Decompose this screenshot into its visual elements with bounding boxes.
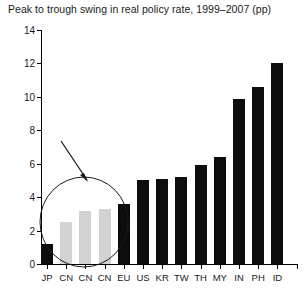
bar-eu-4 — [118, 204, 130, 264]
x-axis-tick-mark — [181, 265, 182, 269]
x-axis-tick-mark — [239, 265, 240, 269]
y-axis-tick-label: 14 — [24, 25, 35, 36]
y-axis-tick-label: 2 — [29, 225, 35, 236]
x-axis-label-2: CN — [79, 272, 93, 283]
x-axis-tick-mark — [124, 265, 125, 269]
x-axis-label-6: KR — [156, 272, 169, 283]
x-axis-label-8: TH — [194, 272, 207, 283]
bar-id-12 — [271, 63, 283, 264]
bar-in-10 — [233, 99, 245, 264]
y-axis-tick-label: 6 — [29, 158, 35, 169]
y-axis-tick-label: 12 — [24, 58, 35, 69]
x-axis-tick-mark — [297, 265, 298, 269]
x-axis-label-11: PH — [252, 272, 265, 283]
y-axis-tick-label: 4 — [29, 192, 35, 203]
x-axis-label-12: ID — [273, 272, 283, 283]
y-axis-tick-mark — [37, 130, 41, 131]
y-axis-tick-mark — [37, 197, 41, 198]
bar-my-9 — [214, 157, 226, 264]
x-axis-label-4: EU — [117, 272, 130, 283]
x-axis-label-1: CN — [59, 272, 73, 283]
y-axis-tick-mark — [37, 264, 41, 265]
bar-tw-7 — [175, 177, 187, 264]
x-axis-label-3: CN — [98, 272, 112, 283]
x-axis-tick-mark — [143, 265, 144, 269]
x-axis-tick-mark — [220, 265, 221, 269]
x-axis-tick-mark — [277, 265, 278, 269]
plot-area: 02468101214 — [41, 30, 299, 264]
x-axis-label-5: US — [136, 272, 149, 283]
y-axis-tick-mark — [37, 63, 41, 64]
bar-cn-3 — [99, 209, 111, 264]
bar-ph-11 — [252, 87, 264, 264]
bar-cn-1 — [60, 222, 72, 264]
x-axis-label-0: JP — [41, 272, 52, 283]
y-axis-tick-label: 0 — [29, 259, 35, 270]
y-axis-tick-mark — [37, 231, 41, 232]
y-axis-tick-mark — [37, 164, 41, 165]
x-axis-tick-mark — [66, 265, 67, 269]
x-axis-tick-mark — [105, 265, 106, 269]
bar-jp-0 — [41, 244, 53, 264]
bar-th-8 — [195, 165, 207, 264]
chart-figure: Peak to trough swing in real policy rate… — [0, 0, 305, 288]
x-axis-tick-mark — [162, 265, 163, 269]
x-axis-label-9: MY — [213, 272, 227, 283]
y-axis-tick-label: 10 — [24, 91, 35, 102]
chart-title: Peak to trough swing in real policy rate… — [8, 3, 271, 15]
y-axis-tick-mark — [37, 97, 41, 98]
x-axis-tick-mark — [85, 265, 86, 269]
x-axis-tick-mark — [258, 265, 259, 269]
x-axis-tick-mark — [47, 265, 48, 269]
x-axis-line — [41, 264, 298, 265]
x-axis-label-10: IN — [234, 272, 244, 283]
x-axis-tick-mark — [201, 265, 202, 269]
x-axis-label-7: TW — [174, 272, 189, 283]
y-axis-tick-label: 8 — [29, 125, 35, 136]
bar-kr-6 — [156, 179, 168, 264]
y-axis-tick-mark — [37, 30, 41, 31]
bar-us-5 — [137, 180, 149, 264]
bar-cn-2 — [79, 211, 91, 264]
